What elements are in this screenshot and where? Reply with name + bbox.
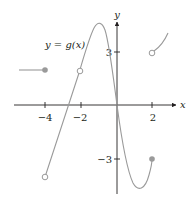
x-tick-label-neg4: −4 [38,112,53,123]
function-graph: −4 −2 2 3 −3 x y y = g(x) [0,0,192,198]
x-tick-label-neg2: −2 [73,112,88,123]
open-circle-neg4-neg4 [42,174,48,180]
closed-dot-2-neg3 [149,156,155,162]
open-circle-neg2-2 [77,68,83,74]
function-label: y = g(x) [44,39,85,50]
open-circle-2-3 [149,50,155,56]
y-tick-label-neg3: −3 [97,154,112,165]
curve-piece-3 [154,33,168,51]
closed-dot-neg4-2 [42,67,48,73]
x-tick-label-2: 2 [150,112,156,123]
x-axis-label: x [180,99,186,110]
y-axis-label: y [113,9,120,20]
